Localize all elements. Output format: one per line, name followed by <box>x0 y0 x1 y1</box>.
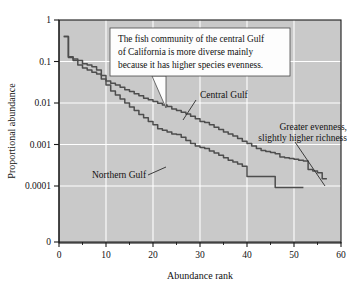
y-tick-label: 0.1 <box>39 57 51 67</box>
callout-text-line2: of California is more diverse mainly <box>118 47 253 57</box>
x-axis-title: Abundance rank <box>167 270 233 281</box>
x-tick-label: 60 <box>336 250 346 260</box>
y-tick-label: 0.01 <box>34 98 51 108</box>
northern-gulf-label: Northern Gulf <box>92 170 147 180</box>
y-tick-label: 0 <box>46 237 51 247</box>
x-tick-label: 10 <box>101 250 111 260</box>
y-axis-title: Proportional abundance <box>6 83 17 179</box>
x-tick-label: 40 <box>242 250 252 260</box>
greater-evenness-label-line2: slightly higher richness <box>258 133 347 143</box>
y-tick-label: 1 <box>46 15 51 25</box>
x-tick-label: 20 <box>148 250 158 260</box>
y-tick-label: 0.001 <box>30 140 52 150</box>
y-tick-label: 0.0001 <box>25 181 51 191</box>
rank-abundance-figure: 0102030405060 10.10.010.0010.00010 Abund… <box>0 0 354 287</box>
x-tick-label: 30 <box>195 250 205 260</box>
central-gulf-label: Central Gulf <box>200 90 249 100</box>
callout-text-line3: because it has higher species evenness. <box>118 60 263 70</box>
x-tick-label: 50 <box>289 250 299 260</box>
callout-text-line1: The fish community of the central Gulf <box>118 34 265 44</box>
chart-canvas: 0102030405060 10.10.010.0010.00010 Abund… <box>0 0 354 287</box>
x-tick-label: 0 <box>57 250 62 260</box>
greater-evenness-label-line1: Greater evenness, <box>279 122 347 132</box>
